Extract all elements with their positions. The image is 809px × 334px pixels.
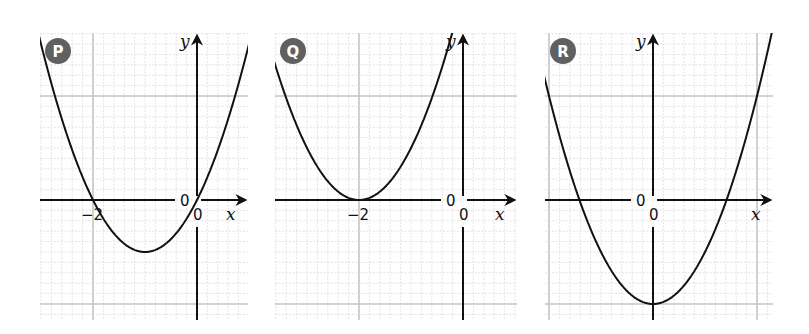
grid: [40, 33, 248, 320]
quadratic-graphs-figure: 00−2xyP00−2xyQ00xyR: [0, 0, 809, 334]
grid: [275, 33, 517, 320]
graph-panel-p: 00−2xyP: [38, 31, 250, 320]
tick-label: −2: [81, 206, 103, 224]
origin-label: 0: [649, 206, 659, 224]
origin-label: 0: [636, 192, 646, 210]
origin-label: 0: [459, 206, 469, 224]
panel-badge-label: R: [557, 43, 569, 61]
y-axis-label: y: [635, 31, 646, 51]
y-axis-label: y: [179, 31, 190, 51]
x-axis-label: x: [226, 204, 236, 224]
tick-label: −2: [347, 206, 369, 224]
panel-badge-label: Q: [287, 43, 300, 61]
parabola-curve: [543, 18, 775, 304]
graph-panel-q: 00−2xyQ: [273, 0, 519, 320]
x-axis-label: x: [751, 204, 761, 224]
x-axis-label: x: [495, 204, 505, 224]
grid: [545, 33, 773, 320]
origin-label: 0: [193, 206, 203, 224]
parabola-curve: [273, 0, 519, 200]
y-axis-label: y: [445, 31, 456, 51]
panel-badge-label: P: [53, 43, 64, 61]
origin-label: 0: [180, 192, 190, 210]
graph-panel-r: 00xyR: [543, 18, 775, 320]
origin-label: 0: [446, 192, 456, 210]
